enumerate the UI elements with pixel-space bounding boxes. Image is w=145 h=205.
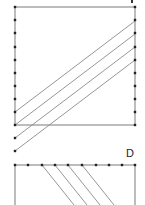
right-edge-dot — [134, 124, 136, 126]
right-edge-dot — [134, 46, 136, 48]
panel-c-hatch-lines — [15, 21, 135, 151]
left-edge-dot — [14, 6, 16, 8]
left-edge-dot — [14, 85, 16, 87]
right-edge-dot — [134, 72, 136, 74]
hatch-line — [55, 165, 87, 205]
hatch-line — [15, 34, 135, 125]
left-edge-dot — [14, 59, 16, 61]
top-edge-dot — [67, 164, 69, 166]
left-edge-dot — [14, 46, 16, 48]
top-edge-dot — [108, 164, 110, 166]
left-edge-dot — [14, 111, 16, 113]
panel-c — [14, 6, 136, 152]
panel-d-frame — [15, 165, 135, 205]
hatch-line — [15, 47, 135, 138]
left-edge-dot — [14, 32, 16, 34]
panel-d-box — [15, 165, 135, 205]
panel-d-label: D — [126, 147, 134, 159]
right-edge-dot — [134, 85, 136, 87]
top-edge-dot — [54, 164, 56, 166]
top-edge-dot — [27, 164, 29, 166]
left-edge-dot — [14, 19, 16, 21]
top-edge-dot — [134, 164, 136, 166]
panel-d: D — [14, 147, 136, 205]
hatch-line — [68, 165, 100, 205]
hatch-line — [42, 165, 74, 205]
panel-d-hatch-lines — [42, 165, 114, 205]
right-edge-dot — [134, 98, 136, 100]
left-edge-dot — [14, 137, 16, 139]
top-edge-dot — [121, 164, 123, 166]
right-edge-dot — [134, 6, 136, 8]
top-edge-dot — [81, 164, 83, 166]
cut-off-label-fragment — [131, 0, 133, 3]
diagram-canvas: D — [0, 0, 145, 205]
top-edge-dot — [95, 164, 97, 166]
right-edge-dot — [134, 19, 136, 21]
hatch-line — [15, 60, 135, 151]
top-edge-dot — [41, 164, 43, 166]
top-edge-dot — [14, 164, 16, 166]
left-edge-dot — [14, 150, 16, 152]
left-edge-dot — [14, 124, 16, 126]
right-edge-dot — [134, 111, 136, 113]
left-edge-dot — [14, 72, 16, 74]
right-edge-dot — [134, 32, 136, 34]
hatch-line — [15, 21, 135, 112]
right-edge-dot — [134, 59, 136, 61]
left-edge-dot — [14, 98, 16, 100]
hatch-line — [82, 165, 114, 205]
